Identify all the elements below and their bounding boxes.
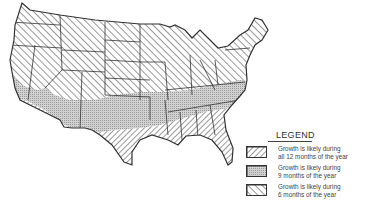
legend-line: Growth is likely during — [278, 145, 348, 153]
legend-line: Growth is likely during — [278, 183, 341, 191]
legend-label-9-months: Growth is likely during 9 months of the … — [278, 164, 341, 180]
hatch-12-months-swatch — [246, 146, 267, 158]
legend-label-12-months: Growth is likely during all 12 months of… — [278, 145, 348, 161]
legend-line: 9 months of the year — [278, 172, 341, 180]
legend-line: all 12 months of the year — [278, 153, 348, 161]
legend-item-12-months: Growth is likely during all 12 months of… — [246, 146, 366, 162]
legend-item-9-months: Growth is likely during 9 months of the … — [246, 165, 366, 181]
legend-line: Growth is likely during — [278, 164, 341, 172]
legend-label-6-months: Growth is likely during 6 months of the … — [278, 183, 341, 199]
legend-divider — [268, 141, 312, 142]
legend-line: 6 months of the year — [278, 191, 341, 199]
legend-item-6-months: Growth is likely during 6 months of the … — [246, 184, 366, 200]
hatch-6-months-swatch — [246, 184, 267, 196]
legend-title: LEGEND — [276, 130, 315, 140]
stipple-9-months-swatch — [246, 165, 267, 177]
